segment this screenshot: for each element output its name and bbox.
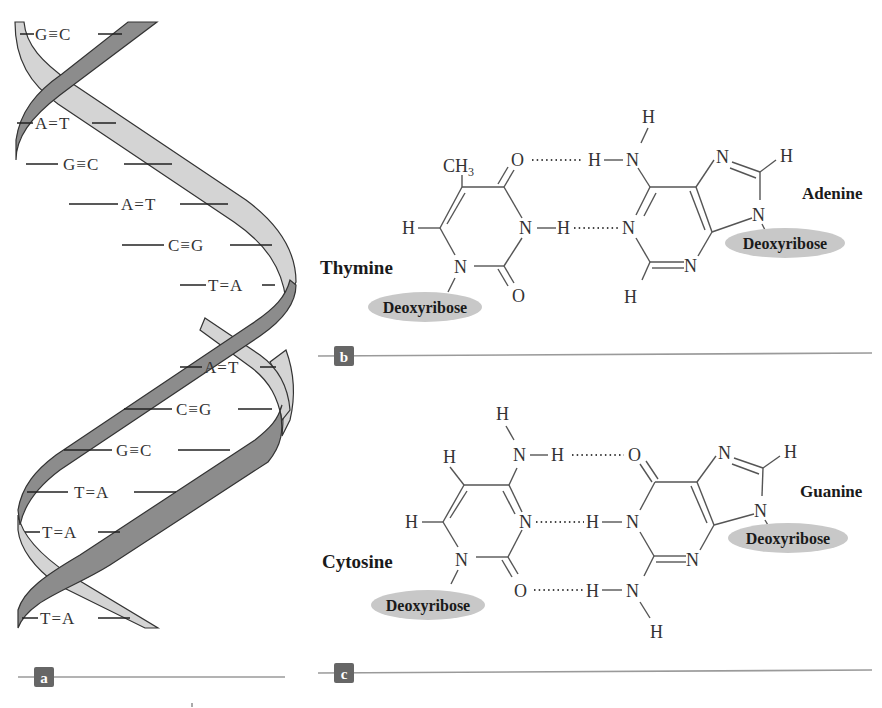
svg-text:N: N <box>513 445 526 465</box>
base-pair: T=A <box>27 483 176 502</box>
panel-label-c: c <box>318 663 872 683</box>
helix-strand-dark-middle <box>18 280 296 525</box>
svg-text:H: H <box>624 287 637 307</box>
thymine-deoxyribose: Deoxyribose <box>368 292 482 322</box>
adenine-structure: H H N <box>588 107 793 307</box>
svg-text:H: H <box>402 218 415 238</box>
svg-text:N: N <box>454 257 467 277</box>
svg-text:N: N <box>519 218 532 238</box>
adenine-deoxyribose: Deoxyribose <box>725 228 845 258</box>
svg-text:G≡C: G≡C <box>35 25 70 44</box>
svg-text:N: N <box>684 256 697 276</box>
svg-text:H: H <box>650 622 663 642</box>
figure-canvas: G≡C A=T G≡C A=T C≡G T=A <box>0 0 882 708</box>
svg-text:H: H <box>443 447 456 467</box>
svg-text:Deoxyribose: Deoxyribose <box>386 597 470 615</box>
svg-text:A=T: A=T <box>204 358 239 377</box>
svg-text:T=A: T=A <box>42 523 77 542</box>
svg-text:T=A: T=A <box>40 609 75 628</box>
svg-text:H: H <box>642 107 655 127</box>
cytosine-deoxyribose: Deoxyribose <box>371 590 485 620</box>
svg-text:O: O <box>628 445 641 465</box>
helix-strand-dark-lower <box>18 405 282 628</box>
svg-text:O: O <box>512 286 525 306</box>
svg-text:N: N <box>686 550 699 570</box>
adenine-label: Adenine <box>802 184 863 203</box>
guanine-deoxyribose: Deoxyribose <box>728 523 848 553</box>
svg-text:H: H <box>780 146 793 166</box>
cytosine-label: Cytosine <box>322 551 393 572</box>
guanine-label: Guanine <box>800 482 863 501</box>
svg-text:O: O <box>514 581 527 601</box>
svg-text:H: H <box>784 442 797 462</box>
svg-text:c: c <box>341 666 348 682</box>
svg-text:N: N <box>622 218 635 238</box>
svg-text:b: b <box>340 349 348 365</box>
svg-text:H: H <box>496 404 509 424</box>
svg-text:H: H <box>588 150 601 170</box>
panel-label-a: a <box>18 667 285 687</box>
svg-text:H: H <box>586 581 599 601</box>
svg-text:C≡G: C≡G <box>168 236 203 255</box>
svg-text:N: N <box>716 147 729 167</box>
svg-text:A=T: A=T <box>35 114 70 133</box>
cytosine-guanine-pair: H N H H H <box>322 404 863 642</box>
svg-text:A=T: A=T <box>121 195 156 214</box>
svg-text:Deoxyribose: Deoxyribose <box>746 530 830 548</box>
base-pair: T=A <box>180 276 275 295</box>
svg-text:H: H <box>405 512 418 532</box>
svg-text:a: a <box>40 670 48 686</box>
svg-text:N: N <box>626 512 639 532</box>
svg-text:T=A: T=A <box>208 276 243 295</box>
panel-label-b: b <box>318 346 872 366</box>
svg-text:H: H <box>551 445 564 465</box>
svg-text:H: H <box>557 218 570 238</box>
svg-text:C≡G: C≡G <box>176 400 211 419</box>
cytosine-structure: H N H H H <box>405 404 564 601</box>
thymine-structure: CH3 O H N H N O <box>402 150 570 306</box>
base-pair: C≡G <box>122 236 272 255</box>
svg-text:N: N <box>754 501 767 521</box>
svg-text:N: N <box>519 512 532 532</box>
atom-ch3: CH3 <box>443 156 474 179</box>
helix-strand-light-upper <box>15 22 296 300</box>
svg-text:Deoxyribose: Deoxyribose <box>383 299 467 317</box>
svg-text:G≡C: G≡C <box>63 155 98 174</box>
thymine-adenine-pair: CH3 O H N H N O Thymine Deoxyribose H H … <box>320 107 863 322</box>
svg-text:N: N <box>752 205 765 225</box>
svg-text:N: N <box>626 150 639 170</box>
svg-text:N: N <box>718 443 731 463</box>
svg-text:N: N <box>626 581 639 601</box>
svg-text:O: O <box>511 150 524 170</box>
svg-text:Deoxyribose: Deoxyribose <box>743 235 827 253</box>
svg-text:N: N <box>455 550 468 570</box>
svg-text:G≡C: G≡C <box>116 441 151 460</box>
thymine-label: Thymine <box>320 257 393 278</box>
svg-text:H: H <box>586 512 599 532</box>
svg-text:T=A: T=A <box>74 483 109 502</box>
